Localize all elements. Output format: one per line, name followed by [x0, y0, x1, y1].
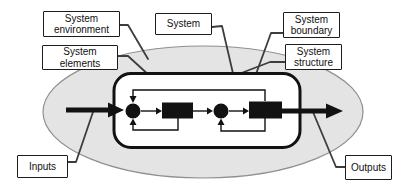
- label-outputs: Outputs: [345, 155, 392, 180]
- element-block-2: [249, 102, 282, 119]
- label-system-text: System: [167, 18, 200, 30]
- label-outputs-text: Outputs: [351, 162, 386, 174]
- summing-node-2: [214, 104, 229, 119]
- element-block-1: [162, 103, 193, 119]
- summing-node-1: [126, 104, 141, 119]
- label-system-environment-text: System environment: [54, 13, 109, 36]
- label-system-elements: System elements: [42, 45, 118, 70]
- label-system-environment: System environment: [43, 11, 120, 37]
- system-concept-diagram: System environment System elements Syste…: [0, 0, 407, 193]
- label-system-boundary: System boundary: [283, 12, 340, 38]
- label-system-structure-text: System structure: [294, 46, 333, 69]
- label-inputs-text: Inputs: [29, 161, 56, 173]
- label-system-boundary-text: System boundary: [291, 14, 333, 37]
- label-system-elements-text: System elements: [60, 46, 101, 69]
- label-system-structure: System structure: [285, 44, 342, 70]
- label-system: System: [155, 13, 212, 35]
- label-inputs: Inputs: [17, 155, 68, 178]
